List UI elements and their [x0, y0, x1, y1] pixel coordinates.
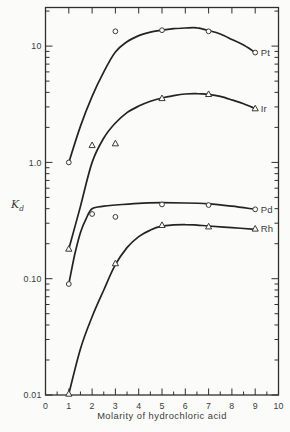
figure-kd-vs-hcl-molarity: PtIrPdRh101.00.100.01012345678910 Kd Mol… [0, 0, 290, 432]
pt-data-marker-circle [160, 28, 165, 33]
rh-data-marker-triangle [159, 222, 165, 228]
pd-data-marker-circle [206, 203, 211, 208]
pd-curve [69, 203, 255, 284]
pd-data-marker-circle [160, 202, 165, 207]
x-tick-label-9: 9 [253, 401, 258, 411]
pt-data-marker-circle [66, 160, 71, 165]
series-label-pd: Pd [261, 204, 273, 215]
kd-chart-canvas: PtIrPdRh101.00.100.01012345678910 [0, 0, 290, 432]
x-tick-label-8: 8 [229, 401, 234, 411]
y-tick-label-0.10: 0.10 [24, 274, 42, 284]
series-label-ir: Ir [261, 103, 267, 114]
ir-data-marker-triangle [112, 140, 118, 146]
pt-data-marker-circle [253, 50, 258, 55]
pt-data-marker-circle [206, 29, 211, 34]
ir-data-marker-triangle [89, 142, 95, 148]
y-axis-label-symbol: K [11, 198, 19, 211]
pd-data-marker-circle [113, 214, 118, 219]
y-tick-label-10: 10 [31, 41, 41, 51]
x-tick-label-6: 6 [183, 401, 188, 411]
rh-curve [69, 225, 255, 394]
series-label-rh: Rh [261, 223, 274, 234]
ir-data-marker-triangle [66, 246, 72, 252]
y-axis-label-subscript: d [19, 204, 24, 213]
x-tick-label-4: 4 [136, 401, 141, 411]
y-axis-label: Kd [11, 198, 24, 213]
pd-data-marker-circle [253, 207, 258, 212]
rh-data-marker-triangle [66, 391, 72, 397]
y-tick-label-1.0: 1.0 [29, 158, 42, 168]
y-tick-label-0.01: 0.01 [24, 390, 42, 400]
pt-data-marker-circle [113, 29, 118, 34]
series-label-pt: Pt [261, 47, 271, 58]
x-tick-label-7: 7 [206, 401, 211, 411]
x-tick-label-2: 2 [90, 401, 95, 411]
x-tick-label-0: 0 [43, 401, 48, 411]
pd-data-marker-circle [90, 212, 95, 217]
x-axis-label: Molarity of hydrochloric acid [45, 411, 279, 421]
x-tick-label-10: 10 [273, 401, 283, 411]
pd-data-marker-circle [66, 282, 71, 287]
plot-frame [46, 8, 279, 396]
x-tick-label-1: 1 [66, 401, 71, 411]
x-tick-label-3: 3 [113, 401, 118, 411]
x-tick-label-5: 5 [159, 401, 164, 411]
